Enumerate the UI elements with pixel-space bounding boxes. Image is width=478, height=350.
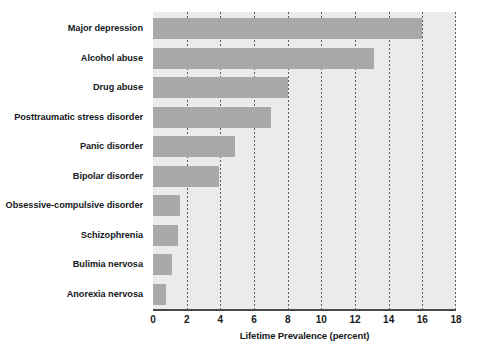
bar-slot	[153, 14, 456, 44]
y-axis-label-slot: Schizophrenia	[0, 221, 149, 251]
x-axis-tick-16: 16	[417, 313, 428, 327]
bar-panic-disorder[interactable]	[153, 136, 235, 157]
bar-slot	[153, 162, 456, 192]
y-axis-label-posttraumatic-stress-disorder: Posttraumatic stress disorder	[14, 113, 143, 122]
y-axis-label-slot: Alcohol abuse	[0, 44, 149, 74]
bar-major-depression[interactable]	[153, 18, 422, 39]
bar-alcohol-abuse[interactable]	[153, 48, 374, 69]
plot-area	[153, 12, 456, 309]
y-axis-label-drug-abuse: Drug abuse	[93, 83, 143, 92]
y-axis-label-slot: Bulimia nervosa	[0, 250, 149, 280]
x-axis-tick-labels: 024681012141618	[153, 313, 456, 327]
y-axis-label-major-depression: Major depression	[68, 24, 143, 33]
y-axis-label-slot: Drug abuse	[0, 73, 149, 103]
bar-chart-figure: Major depression Alcohol abuse Drug abus…	[0, 0, 478, 350]
y-axis-label-slot: Major depression	[0, 14, 149, 44]
x-axis-tick-10: 10	[316, 313, 327, 327]
bar-schizophrenia[interactable]	[153, 225, 178, 246]
y-axis-label-obsessive-compulsive-disorder: Obsessive-compulsive disorder	[6, 201, 143, 210]
bar-slot	[153, 280, 456, 310]
x-axis-tick-12: 12	[349, 313, 360, 327]
y-axis-category-labels: Major depression Alcohol abuse Drug abus…	[0, 14, 149, 309]
bar-drug-abuse[interactable]	[153, 77, 288, 98]
x-axis-tick-8: 8	[285, 313, 291, 327]
y-axis-label-slot: Bipolar disorder	[0, 162, 149, 192]
bar-bulimia-nervosa[interactable]	[153, 254, 172, 275]
bar-slot	[153, 191, 456, 221]
bar-slot	[153, 132, 456, 162]
y-axis-label-slot: Obsessive-compulsive disorder	[0, 191, 149, 221]
y-axis-label-anorexia-nervosa: Anorexia nervosa	[67, 290, 143, 299]
y-axis-label-alcohol-abuse: Alcohol abuse	[81, 54, 143, 63]
x-axis-tick-14: 14	[383, 313, 394, 327]
bar-obsessive-compulsive-disorder[interactable]	[153, 195, 180, 216]
x-axis-tick-0: 0	[150, 313, 156, 327]
y-axis-label-bipolar-disorder: Bipolar disorder	[73, 172, 143, 181]
bar-slot	[153, 221, 456, 251]
y-axis-label-panic-disorder: Panic disorder	[80, 142, 143, 151]
y-axis-label-slot: Panic disorder	[0, 132, 149, 162]
bar-bipolar-disorder[interactable]	[153, 166, 219, 187]
bars-layer	[153, 14, 456, 309]
y-axis-label-slot: Anorexia nervosa	[0, 280, 149, 310]
y-axis-label-schizophrenia: Schizophrenia	[81, 231, 143, 240]
y-axis-label-slot: Posttraumatic stress disorder	[0, 103, 149, 133]
bar-slot	[153, 103, 456, 133]
bar-anorexia-nervosa[interactable]	[153, 284, 166, 305]
x-axis-tick-2: 2	[184, 313, 190, 327]
bar-posttraumatic-stress-disorder[interactable]	[153, 107, 271, 128]
bar-slot	[153, 250, 456, 280]
x-axis-tick-4: 4	[218, 313, 224, 327]
bar-slot	[153, 73, 456, 103]
x-axis-tick-18: 18	[450, 313, 461, 327]
bar-slot	[153, 44, 456, 74]
y-axis-label-bulimia-nervosa: Bulimia nervosa	[73, 260, 143, 269]
x-axis-tick-6: 6	[251, 313, 257, 327]
x-axis-title: Lifetime Prevalence (percent)	[153, 330, 456, 341]
x-axis-line	[153, 309, 456, 311]
